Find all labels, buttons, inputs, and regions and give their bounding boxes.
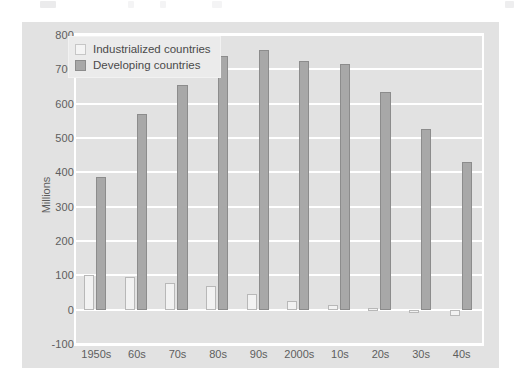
legend-swatch-developing-icon <box>75 60 86 71</box>
ghost-ui-element <box>160 1 166 8</box>
y-tick-label: 600 <box>30 98 74 110</box>
bar-group <box>320 35 361 344</box>
x-tick-label: 30s <box>412 348 430 360</box>
bar-industrialized[interactable] <box>450 310 460 316</box>
bar-group <box>198 35 239 344</box>
bar-group <box>238 35 279 344</box>
y-tick-label: 100 <box>30 269 74 281</box>
bar-developing[interactable] <box>137 114 147 310</box>
bar-developing[interactable] <box>380 92 390 310</box>
chart-legend: Industrialized countries Developing coun… <box>68 36 221 78</box>
chart-container: Millions 8007006005004003002001000-100 1… <box>22 22 499 368</box>
bar-developing[interactable] <box>340 64 350 309</box>
bar-industrialized[interactable] <box>206 286 216 310</box>
bar-group <box>360 35 401 344</box>
y-tick-label: 400 <box>30 166 74 178</box>
plot-area <box>76 35 482 344</box>
y-tick-label: 300 <box>30 201 74 213</box>
bar-developing[interactable] <box>259 50 269 309</box>
x-tick-label: 10s <box>331 348 349 360</box>
bar-industrialized[interactable] <box>165 283 175 310</box>
legend-item[interactable]: Industrialized countries <box>75 41 211 57</box>
bar-industrialized[interactable] <box>409 310 419 313</box>
y-tick-label: 0 <box>30 304 74 316</box>
bar-developing[interactable] <box>299 61 309 310</box>
bar-developing[interactable] <box>218 56 228 310</box>
bar-industrialized[interactable] <box>84 275 94 309</box>
x-tick-label: 1950s <box>81 348 111 360</box>
legend-swatch-industrialized-icon <box>75 44 86 55</box>
host-ui-strip <box>0 0 521 13</box>
x-tick-label: 70s <box>169 348 187 360</box>
bar-group <box>76 35 117 344</box>
x-tick-label: 2000s <box>284 348 314 360</box>
y-tick-label: -100 <box>30 338 74 350</box>
bar-group <box>157 35 198 344</box>
legend-label: Developing countries <box>93 59 200 71</box>
x-tick-label: 90s <box>250 348 268 360</box>
y-axis-tick-labels: 8007006005004003002001000-100 <box>22 35 74 344</box>
bar-developing[interactable] <box>421 129 431 309</box>
bar-industrialized[interactable] <box>247 294 257 309</box>
bar-group <box>279 35 320 344</box>
ghost-ui-element <box>40 1 56 8</box>
bar-industrialized[interactable] <box>125 277 135 310</box>
y-tick-label: 500 <box>30 132 74 144</box>
bar-group <box>401 35 442 344</box>
x-tick-label: 20s <box>372 348 390 360</box>
x-tick-label: 40s <box>453 348 471 360</box>
ghost-ui-element <box>128 1 134 8</box>
ghost-ui-element <box>212 1 222 8</box>
ghost-ui-element <box>505 1 514 8</box>
bar-developing[interactable] <box>96 177 106 309</box>
legend-item[interactable]: Developing countries <box>75 57 211 73</box>
bar-developing[interactable] <box>462 162 472 310</box>
bar-group <box>117 35 158 344</box>
bar-group <box>441 35 482 344</box>
x-tick-label: 60s <box>128 348 146 360</box>
x-axis-tick-labels: 1950s60s70s80s90s2000s10s20s30s40s <box>76 348 482 366</box>
x-tick-label: 80s <box>209 348 227 360</box>
y-tick-label: 200 <box>30 235 74 247</box>
bar-groups <box>76 35 482 344</box>
legend-label: Industrialized countries <box>93 43 211 55</box>
bar-industrialized[interactable] <box>368 308 378 311</box>
bar-developing[interactable] <box>177 85 187 310</box>
bar-industrialized[interactable] <box>287 301 297 310</box>
bar-industrialized[interactable] <box>328 305 338 310</box>
